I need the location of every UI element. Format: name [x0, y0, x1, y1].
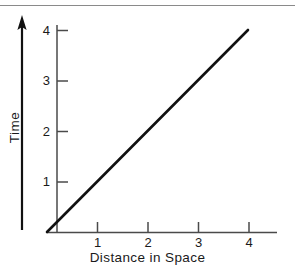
x-tick-label-1: 1: [90, 236, 106, 249]
x-tick-label-4: 4: [241, 236, 257, 249]
chart-figure: 4 3 2 1 1 2 3 4 Time Distance in Space: [0, 0, 295, 272]
data-series-worldline: [47, 30, 248, 232]
y-axis-ticks: [57, 31, 68, 183]
y-tick-label-4: 4: [34, 24, 50, 37]
y-axis-title: Time: [7, 100, 22, 156]
y-tick-label-1: 1: [34, 175, 50, 188]
x-axis-ticks: [98, 222, 250, 233]
x-axis-title: Distance in Space: [0, 250, 295, 265]
y-tick-label-2: 2: [34, 125, 50, 138]
x-tick-label-3: 3: [191, 236, 207, 249]
x-tick-label-2: 2: [140, 236, 156, 249]
y-tick-label-3: 3: [34, 74, 50, 87]
